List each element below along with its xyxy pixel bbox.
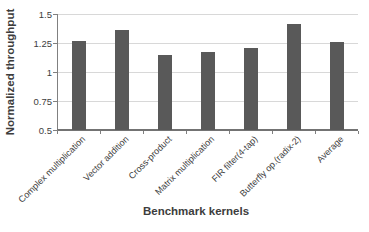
x-tick-mark (100, 131, 101, 134)
x-axis-title: Benchmark kernels (143, 205, 249, 217)
x-tick-mark (143, 131, 144, 134)
x-tick-mark (57, 131, 58, 134)
x-tick-mark (315, 131, 316, 134)
bar-fir-filter-4-tap- (244, 48, 258, 130)
y-axis-title: Normalized throughput (4, 9, 16, 136)
y-tick-label: 1 (22, 67, 52, 78)
bar-cross-product (158, 55, 172, 130)
y-tick-mark (53, 14, 58, 15)
bar-chart-figure: Normalized throughput 0.50.7511.251.5Com… (0, 0, 369, 232)
x-tick-mark (229, 131, 230, 134)
bar-complex-multiplication (72, 41, 86, 130)
bar-vector-addition (115, 30, 129, 130)
x-category-label: Complex multiplication (17, 134, 88, 205)
gridline (58, 14, 358, 15)
x-category-label: Vector addition (81, 134, 130, 183)
gridline (58, 43, 358, 44)
bar-matrix-multiplication (201, 52, 215, 130)
x-category-label: Average (315, 134, 346, 165)
y-tick-mark (53, 43, 58, 44)
x-tick-mark (358, 131, 359, 134)
y-tick-mark (53, 101, 58, 102)
x-tick-mark (272, 131, 273, 134)
y-tick-label: 0.5 (22, 125, 52, 136)
x-tick-mark (186, 131, 187, 134)
plot-area: 0.50.7511.251.5Complex multiplicationVec… (57, 14, 358, 130)
x-category-label: Cross-product (127, 134, 174, 181)
y-tick-label: 0.75 (22, 96, 52, 107)
bar-butterfly-op-radix-2- (287, 24, 301, 130)
y-tick-label: 1.25 (22, 38, 52, 49)
y-tick-label: 1.5 (22, 9, 52, 20)
bar-average (330, 42, 344, 130)
y-tick-mark (53, 72, 58, 73)
